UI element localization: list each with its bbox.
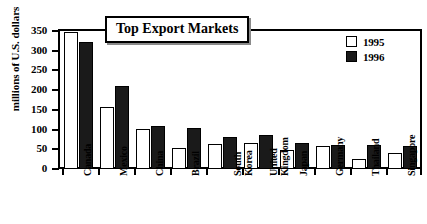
x-tick-label: South Korea [232, 112, 244, 176]
bar-1995 [136, 129, 150, 169]
x-tick-label: Thailand [370, 112, 382, 176]
x-tick-mark [278, 169, 280, 175]
legend-item: 1995 [346, 34, 384, 49]
y-tick-mark [52, 50, 59, 52]
x-tick-mark [206, 169, 208, 175]
y-tick-label: 150 [0, 102, 47, 117]
x-tick-label: Japan [298, 112, 310, 176]
y-tick-mark [52, 69, 59, 71]
bar-1995 [172, 148, 186, 169]
bar-chart: millions of U.S. dollars 050100150200250… [0, 0, 427, 224]
bar-1995 [100, 107, 114, 169]
y-tick-label: 50 [0, 141, 47, 156]
legend: 19951996 [344, 33, 386, 65]
y-tick-label: 250 [0, 62, 47, 77]
x-tick-label: Brazil [190, 112, 202, 176]
legend-swatch [346, 51, 357, 62]
y-tick-mark [52, 168, 59, 170]
x-tick-label: Canada [82, 112, 94, 176]
x-tick-mark [350, 169, 352, 175]
x-tick-label: Singapore [406, 112, 418, 176]
y-tick-mark [52, 89, 59, 91]
x-tick-mark [134, 169, 136, 175]
bar-1995 [208, 144, 222, 169]
x-tick-label: China [154, 112, 166, 176]
legend-label: 1996 [363, 51, 384, 63]
y-tick-mark [52, 148, 59, 150]
legend-swatch [346, 36, 357, 47]
x-tick-label: Mexico [118, 112, 130, 176]
bar-1995 [352, 159, 366, 169]
y-tick-label: 200 [0, 82, 47, 97]
y-tick-label: 100 [0, 122, 47, 137]
x-tick-mark [62, 169, 64, 175]
x-tick-mark [314, 169, 316, 175]
y-tick-label: 300 [0, 43, 47, 58]
chart-title: Top Export Markets [105, 16, 249, 43]
bar-1995 [64, 32, 78, 169]
y-tick-label: 350 [0, 23, 47, 38]
y-tick-mark [52, 109, 59, 111]
x-tick-mark [98, 169, 100, 175]
bar-1995 [388, 153, 402, 169]
y-tick-mark [52, 129, 59, 131]
y-tick-label: 0 [0, 161, 47, 176]
x-tick-mark [170, 169, 172, 175]
legend-item: 1996 [346, 49, 384, 64]
legend-label: 1995 [363, 36, 384, 48]
bar-1995 [316, 146, 330, 169]
x-tick-mark [386, 169, 388, 175]
x-tick-label: Germany [334, 112, 346, 176]
y-tick-mark [52, 30, 59, 32]
x-tick-label: United Kingdom [268, 112, 280, 176]
x-tick-mark [242, 169, 244, 175]
x-tick-mark [420, 169, 422, 175]
